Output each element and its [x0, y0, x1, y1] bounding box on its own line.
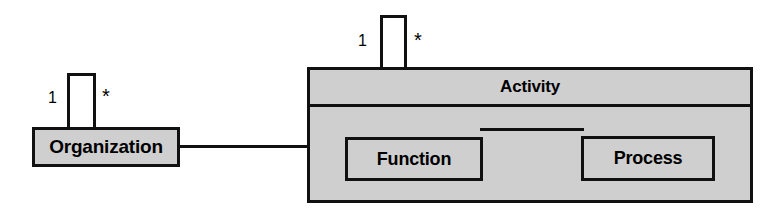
association-organization-activity	[178, 145, 309, 148]
class-name-activity: Activity	[500, 77, 560, 97]
uml-class-diagram: 1 * Organization 1 * Activity Function P…	[0, 0, 780, 215]
class-node-activity[interactable]: Activity Function Process	[307, 67, 753, 203]
class-header-activity: Activity	[310, 70, 750, 107]
class-node-function[interactable]: Function	[345, 137, 483, 181]
self-association-organization	[67, 73, 96, 129]
multiplicity-organization-one: 1	[48, 90, 57, 106]
class-name-process: Process	[614, 148, 683, 169]
self-association-activity	[380, 15, 407, 69]
class-body-activity: Function Process	[310, 107, 750, 200]
association-function-process	[480, 128, 584, 131]
class-node-organization[interactable]: Organization	[32, 127, 180, 167]
multiplicity-activity-one: 1	[358, 33, 367, 49]
class-name-function: Function	[377, 149, 451, 170]
multiplicity-activity-many: *	[414, 30, 422, 50]
class-name-organization: Organization	[49, 136, 163, 158]
multiplicity-organization-many: *	[102, 86, 110, 106]
class-node-process[interactable]: Process	[581, 136, 715, 181]
